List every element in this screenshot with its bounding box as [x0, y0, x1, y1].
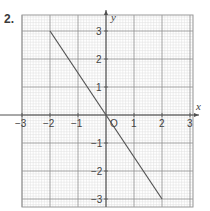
x-tick-label: −1 [71, 118, 83, 129]
minor-grid [22, 15, 193, 207]
y-tick-label: 2 [96, 54, 102, 65]
y-axis-label: y [110, 11, 116, 23]
y-tick-label: −2 [91, 166, 103, 177]
x-tick-label: 3 [187, 118, 193, 129]
coordinate-graph: x y O −3 −2 −1 1 2 3 3 2 1 −1 −2 −3 [0, 0, 210, 211]
x-tick-label: −3 [15, 118, 27, 129]
x-tick-label: −2 [43, 118, 55, 129]
y-tick-label: −3 [91, 194, 103, 205]
y-tick-label: 1 [96, 82, 102, 93]
x-tick-label: 1 [131, 118, 137, 129]
x-axis-arrow-icon [194, 113, 199, 117]
x-tick-label: 2 [159, 118, 165, 129]
origin-label: O [110, 118, 118, 129]
y-axis-arrow-icon [104, 10, 108, 15]
x-axis-label: x [195, 100, 201, 112]
y-tick-label: −1 [91, 138, 103, 149]
y-tick-label: 3 [96, 26, 102, 37]
